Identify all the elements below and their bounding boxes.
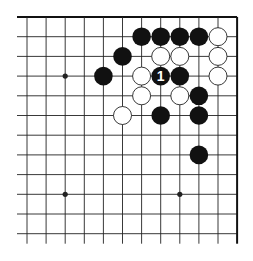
white-stone bbox=[133, 67, 151, 85]
white-stone bbox=[171, 87, 189, 105]
black-stone bbox=[151, 106, 170, 125]
black-stone bbox=[190, 146, 209, 165]
star-point bbox=[63, 74, 68, 79]
white-stone bbox=[114, 107, 132, 125]
black-stone bbox=[171, 67, 190, 86]
black-stone bbox=[113, 47, 132, 66]
white-stone bbox=[209, 47, 227, 65]
black-stone bbox=[171, 27, 190, 46]
white-stone bbox=[209, 67, 227, 85]
black-stone bbox=[132, 27, 151, 46]
star-point bbox=[63, 192, 68, 197]
white-stone bbox=[133, 87, 151, 105]
move-number-label: 1 bbox=[157, 68, 165, 84]
star-point bbox=[177, 192, 182, 197]
white-stone bbox=[152, 47, 170, 65]
black-stone bbox=[190, 106, 209, 125]
white-stone bbox=[171, 47, 189, 65]
black-stone bbox=[151, 27, 170, 46]
black-stone bbox=[94, 67, 113, 86]
white-stone bbox=[209, 28, 227, 46]
black-stone bbox=[190, 27, 209, 46]
go-board-diagram: 1 bbox=[0, 0, 253, 261]
black-stone bbox=[190, 87, 209, 106]
